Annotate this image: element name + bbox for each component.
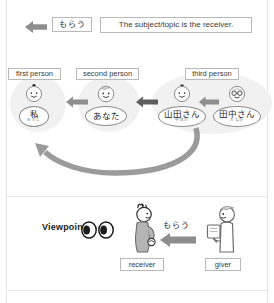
topic-sentence-box: The subject/topic is the receiver. bbox=[100, 17, 252, 33]
person-figure-yamada bbox=[169, 82, 195, 108]
giver-figure bbox=[205, 203, 249, 255]
panel-divider-top bbox=[7, 196, 267, 197]
furigana-text: たなか bbox=[230, 119, 243, 123]
group-label-third-person: third person bbox=[185, 68, 239, 80]
right-edge-rule bbox=[267, 0, 268, 303]
bottom-left-arrow-icon bbox=[160, 232, 196, 248]
flow-arrow-second-to-first bbox=[66, 94, 88, 106]
name-text: あなた bbox=[93, 112, 120, 121]
left-edge-rule bbox=[6, 0, 7, 303]
group-label-first-person: first person bbox=[8, 68, 61, 80]
receiver-caption: receiver bbox=[120, 258, 164, 271]
person-figure-watashi bbox=[21, 82, 47, 108]
left-arrow-icon bbox=[25, 20, 47, 34]
receiver-figure bbox=[118, 203, 164, 255]
furigana-text: わたし bbox=[27, 119, 40, 123]
furigana-text: やまだ bbox=[175, 119, 188, 123]
flow-arrow-third-to-second bbox=[136, 94, 158, 106]
person-figure-tanaka bbox=[224, 82, 250, 108]
person-figure-anata bbox=[92, 82, 120, 108]
morau-verb-bottom: もらう bbox=[163, 219, 189, 230]
curved-left-arrow-icon bbox=[18, 126, 218, 182]
giver-caption: giver bbox=[205, 258, 241, 271]
name-oval-anata: あなた bbox=[85, 106, 127, 126]
eyes-icon bbox=[80, 221, 116, 239]
panel-divider-bottom bbox=[7, 290, 267, 291]
name-oval-tanaka: 田中さん たなか bbox=[213, 106, 261, 127]
flow-arrow-within-third bbox=[199, 94, 219, 106]
group-label-second-person: second person bbox=[76, 68, 139, 80]
diagram-page: もらう The subject/topic is the receiver. f… bbox=[0, 0, 274, 303]
morau-verb-box: もらう bbox=[52, 17, 92, 32]
name-oval-watashi: 私 わたし bbox=[19, 106, 49, 127]
name-oval-yamada: 山田さん やまだ bbox=[158, 106, 206, 127]
